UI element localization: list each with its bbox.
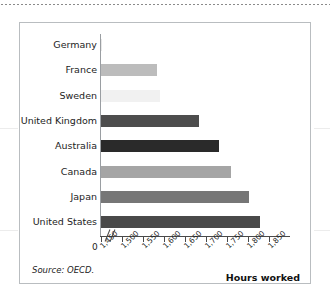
bar-row: Germany <box>20 34 312 56</box>
value-axis-ticks: 1,4501,5001,5501,6001,6501,7001,7501,800… <box>20 236 312 248</box>
bar-rect <box>101 39 102 51</box>
bar-row: Australia <box>20 135 312 157</box>
value-axis-title: Hours worked <box>226 272 300 283</box>
page-hairline-right-lower <box>314 230 330 231</box>
bar-row: Japan <box>20 186 312 208</box>
bar-rect <box>101 90 160 102</box>
bar-category-label: Germany <box>0 34 97 56</box>
bar-category-label: United Kingdom <box>0 110 97 132</box>
bar-category-label: United States <box>0 211 97 233</box>
axis-break-icon <box>104 229 120 245</box>
bar-rect <box>101 140 219 152</box>
bar-category-label: France <box>0 59 97 81</box>
bar-category-label: Japan <box>0 186 97 208</box>
bar-rect <box>101 64 157 76</box>
bar-row: United Kingdom <box>20 110 312 132</box>
bar-row: Sweden <box>20 85 312 107</box>
figure-frame: GermanyFranceSwedenUnited KingdomAustral… <box>19 22 311 284</box>
bar-rect <box>101 191 249 203</box>
source-note: Source: OECD. <box>32 265 94 275</box>
bar-row: Canada <box>20 161 312 183</box>
bar-category-label: Australia <box>0 135 97 157</box>
bar-category-label: Canada <box>0 161 97 183</box>
bar-rect <box>101 115 199 127</box>
page-hairline-right-upper <box>314 128 330 129</box>
bar-row: France <box>20 59 312 81</box>
origin-tick-label: 0 <box>92 242 98 252</box>
bar-row: United States <box>20 211 312 233</box>
bar-chart-plot-area: GermanyFranceSwedenUnited KingdomAustral… <box>20 23 312 285</box>
bar-category-label: Sweden <box>0 85 97 107</box>
top-dotted-rule <box>0 3 330 5</box>
bar-rect <box>101 216 260 228</box>
bar-rect <box>101 166 231 178</box>
